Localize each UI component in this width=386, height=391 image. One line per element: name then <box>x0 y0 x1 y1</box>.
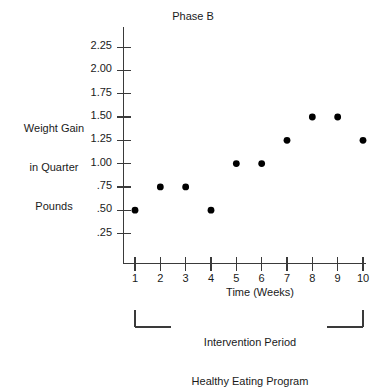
data-point <box>182 184 189 191</box>
data-point <box>284 137 291 144</box>
data-point <box>309 114 316 121</box>
tick-marks <box>117 47 364 270</box>
axes <box>124 27 367 264</box>
x-axis-title: Time (Weeks) <box>180 286 340 299</box>
data-point <box>132 207 139 214</box>
data-point <box>157 184 164 191</box>
intervention-annotation-line-1: Intervention Period <box>150 336 350 349</box>
data-point <box>360 137 367 144</box>
intervention-annotation: Intervention Period Healthy Eating Progr… <box>150 310 350 391</box>
data-point <box>258 160 265 167</box>
data-point <box>334 114 341 121</box>
data-points <box>132 114 367 214</box>
data-point <box>208 207 215 214</box>
data-point <box>233 160 240 167</box>
intervention-annotation-line-2: Healthy Eating Program <box>150 375 350 388</box>
